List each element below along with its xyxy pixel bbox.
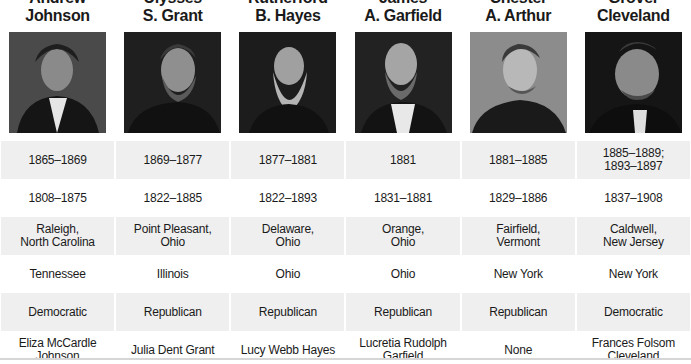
first-lady-line: Garfield <box>383 350 423 363</box>
lifespan-cell: 1808–1875 <box>0 179 115 217</box>
portrait-cell <box>230 26 345 141</box>
term-cell: 1881 <box>345 141 460 179</box>
portrait-cell <box>115 26 230 141</box>
party-cell: Republican <box>115 293 230 331</box>
name-cell: James A. Garfield <box>345 0 460 26</box>
term-cell: 1885–1889; 1893–1897 <box>576 141 691 179</box>
term-cell: 1865–1869 <box>0 141 115 179</box>
birthplace-cell: Raleigh,North Carolina <box>0 217 115 255</box>
person-icon <box>9 32 106 133</box>
home-state-cell: New York <box>576 255 691 293</box>
last-name: A. Garfield <box>364 7 442 25</box>
first-lady-line: Cleveland <box>608 350 660 363</box>
portrait-image <box>9 32 106 133</box>
portrait-image <box>470 32 567 133</box>
first-lady-line: Lucy Webb Hayes <box>241 344 335 357</box>
birthplace-line: Ohio <box>160 236 185 249</box>
portrait-cell <box>461 26 576 141</box>
home-state-cell: Ohio <box>345 255 460 293</box>
first-name: Grover <box>608 0 659 7</box>
first-name: Andrew <box>29 0 86 7</box>
portrait-cell <box>576 26 691 141</box>
birthplace-line: Vermont <box>497 236 540 249</box>
portrait-cell <box>0 26 115 141</box>
person-icon <box>124 32 221 133</box>
lifespan-cell: 1822–1885 <box>115 179 230 217</box>
birthplace-line: Ohio <box>391 236 416 249</box>
term-line: 1893–1897 <box>604 160 662 173</box>
last-name: Cleveland <box>597 7 670 25</box>
lifespan-cell: 1837–1908 <box>576 179 691 217</box>
portrait-cell <box>345 26 460 141</box>
birthplace-cell: Fairfield,Vermont <box>461 217 576 255</box>
party-cell: Republican <box>230 293 345 331</box>
person-icon <box>585 32 682 133</box>
birthplace-row: Raleigh,North Carolina Point Pleasant,Oh… <box>0 217 691 255</box>
last-name: B. Hayes <box>255 7 320 25</box>
birthplace-line: New Jersey <box>603 236 664 249</box>
birthplace-cell: Point Pleasant,Ohio <box>115 217 230 255</box>
party-cell: Republican <box>345 293 460 331</box>
home-state-row: Tennessee Illinois Ohio Ohio New York Ne… <box>0 255 691 293</box>
portrait-image <box>124 32 221 133</box>
party-cell: Democratic <box>0 293 115 331</box>
party-cell: Republican <box>461 293 576 331</box>
birthplace-line: North Carolina <box>20 236 95 249</box>
name-cell: Rutherford B. Hayes <box>230 0 345 26</box>
home-state-cell: Illinois <box>115 255 230 293</box>
name-cell: Andrew Johnson <box>0 0 115 26</box>
birthplace-cell: Orange,Ohio <box>345 217 460 255</box>
term-cell: 1881–1885 <box>461 141 576 179</box>
first-name: Rutherford <box>248 0 328 7</box>
name-row: Andrew Johnson Ulysses S. Grant Rutherfo… <box>0 0 691 26</box>
name-cell: Chester A. Arthur <box>461 0 576 26</box>
birthplace-cell: Caldwell,New Jersey <box>576 217 691 255</box>
presidents-comparison-table: Andrew Johnson Ulysses S. Grant Rutherfo… <box>0 0 691 364</box>
home-state-cell: New York <box>461 255 576 293</box>
first-lady-line: None <box>504 344 532 357</box>
lifespan-cell: 1822–1893 <box>230 179 345 217</box>
person-icon <box>355 32 452 133</box>
lifespan-cell: 1831–1881 <box>345 179 460 217</box>
portrait-row <box>0 26 691 141</box>
bottom-divider <box>0 358 691 360</box>
portrait-image <box>585 32 682 133</box>
party-cell: Democratic <box>576 293 691 331</box>
term-cell: 1869–1877 <box>115 141 230 179</box>
first-name: James <box>379 0 427 7</box>
person-icon <box>239 32 336 133</box>
portrait-image <box>355 32 452 133</box>
home-state-cell: Ohio <box>230 255 345 293</box>
party-row: Democratic Republican Republican Republi… <box>0 293 691 331</box>
name-cell: Ulysses S. Grant <box>115 0 230 26</box>
portrait-image <box>239 32 336 133</box>
first-lady-line: Julia Dent Grant <box>131 344 215 357</box>
home-state-cell: Tennessee <box>0 255 115 293</box>
person-icon <box>470 32 567 133</box>
birthplace-cell: Delaware,Ohio <box>230 217 345 255</box>
last-name: A. Arthur <box>485 7 551 25</box>
term-row: 1865–1869 1869–1877 1877–1881 1881 1881–… <box>0 141 691 179</box>
first-name: Ulysses <box>144 0 202 7</box>
term-cell: 1877–1881 <box>230 141 345 179</box>
lifespan-cell: 1829–1886 <box>461 179 576 217</box>
first-name: Chester <box>489 0 546 7</box>
last-name: Johnson <box>25 7 90 25</box>
name-cell: Grover Cleveland <box>576 0 691 26</box>
last-name: S. Grant <box>143 7 203 25</box>
lifespan-row: 1808–1875 1822–1885 1822–1893 1831–1881 … <box>0 179 691 217</box>
birthplace-line: Ohio <box>276 236 301 249</box>
